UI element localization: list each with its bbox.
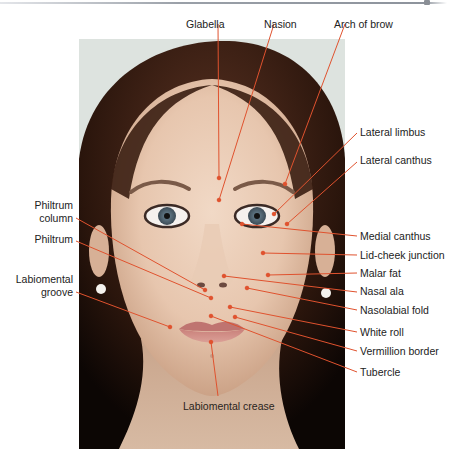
label-nasion: Nasion [264, 18, 297, 31]
label-labiomental-crease: Labiomental crease [183, 400, 275, 413]
label-lid-cheek-junction: Lid-cheek junction [360, 249, 445, 262]
label-nasal-ala: Nasal ala [360, 285, 404, 298]
label-philtrum-column: Philtrum column [0, 199, 73, 225]
label-labiomental-groove: Labiomental groove [0, 273, 73, 299]
label-labiomental-groove-line1: Labiomental [0, 273, 73, 286]
label-medial-canthus: Medial canthus [360, 230, 431, 243]
label-tubercle: Tubercle [360, 366, 400, 379]
label-philtrum: Philtrum [0, 233, 73, 246]
label-white-roll: White roll [360, 326, 404, 339]
label-arch-of-brow: Arch of brow [334, 18, 393, 31]
label-glabella: Glabella [186, 18, 225, 31]
label-lateral-limbus: Lateral limbus [360, 126, 425, 139]
label-nasolabial-fold: Nasolabial fold [360, 304, 429, 317]
label-vermillion-border: Vermillion border [360, 345, 439, 358]
label-labiomental-groove-line2: groove [0, 286, 73, 299]
label-philtrum-column-line2: column [0, 212, 73, 225]
label-malar-fat: Malar fat [360, 267, 401, 280]
label-philtrum-column-line1: Philtrum [0, 199, 73, 212]
label-lateral-canthus: Lateral canthus [360, 154, 432, 167]
